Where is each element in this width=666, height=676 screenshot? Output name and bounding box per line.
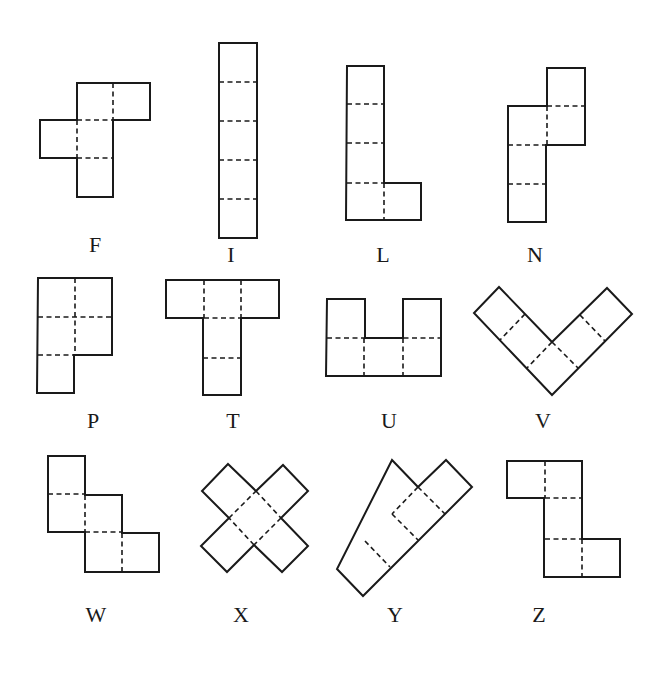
piece-outline	[507, 461, 620, 577]
pentomino-l: L	[346, 66, 421, 267]
piece-outline	[219, 43, 257, 238]
piece-outline	[201, 464, 308, 572]
pentomino-w: W	[48, 456, 159, 627]
fold-line	[229, 491, 256, 518]
piece-label: P	[87, 408, 99, 433]
fold-line	[527, 342, 552, 368]
piece-outline	[337, 460, 472, 596]
piece-label: F	[89, 232, 101, 257]
piece-label: Z	[532, 602, 545, 627]
fold-line	[580, 315, 605, 341]
piece-label: T	[226, 408, 240, 433]
fold-line	[500, 314, 525, 340]
fold-line	[552, 342, 578, 368]
fold-line	[229, 518, 254, 545]
pentomino-diagram: FILNPTUVWXYZ	[0, 0, 666, 676]
pentomino-u: U	[326, 299, 441, 433]
fold-line	[365, 541, 390, 567]
piece-label: X	[233, 602, 249, 627]
pentomino-pieces: FILNPTUVWXYZ	[37, 43, 632, 627]
fold-line	[392, 514, 418, 540]
pentomino-n: N	[508, 68, 585, 267]
fold-line	[392, 487, 418, 514]
pentomino-x: X	[201, 464, 308, 627]
piece-label: N	[527, 242, 543, 267]
fold-line	[418, 487, 445, 514]
pentomino-v: V	[474, 287, 632, 433]
pentomino-y: Y	[337, 460, 472, 627]
fold-line	[254, 518, 281, 545]
piece-label: W	[86, 602, 107, 627]
piece-outline	[166, 280, 279, 395]
pentomino-t: T	[166, 280, 279, 433]
fold-line	[256, 491, 281, 518]
piece-label: U	[381, 408, 397, 433]
piece-outline	[474, 287, 632, 395]
piece-label: Y	[387, 602, 403, 627]
pentomino-f: F	[40, 83, 150, 257]
piece-label: V	[535, 408, 551, 433]
pentomino-z: Z	[507, 461, 620, 627]
piece-outline	[40, 83, 150, 197]
piece-label: L	[376, 242, 389, 267]
piece-label: I	[227, 242, 234, 267]
pentomino-i: I	[219, 43, 257, 267]
piece-outline	[48, 456, 159, 572]
pentomino-p: P	[37, 278, 112, 433]
